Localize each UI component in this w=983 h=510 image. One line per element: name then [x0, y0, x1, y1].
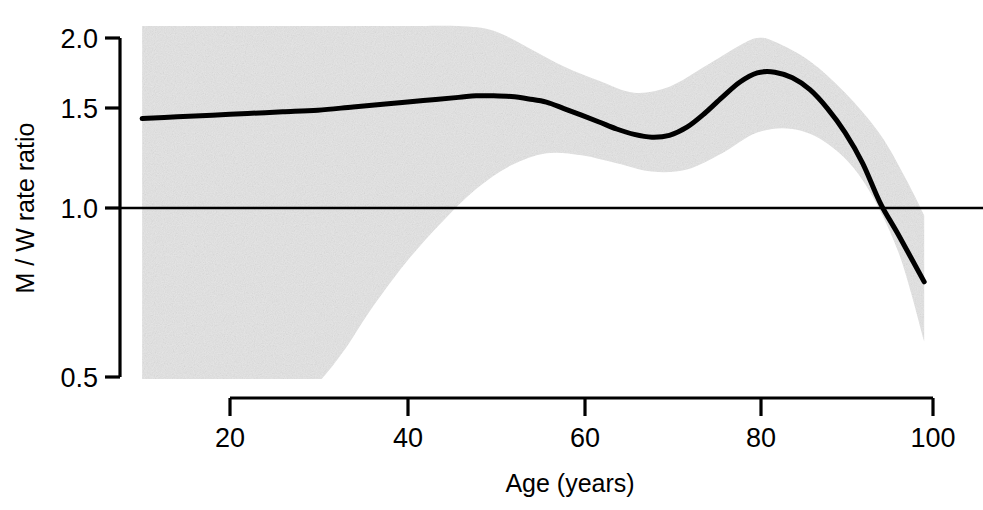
- rate-ratio-chart: 2.0 1.5 1.0 0.5 M / W rate ratio 20 40 6…: [0, 0, 983, 510]
- x-tick-label-60: 60: [570, 423, 600, 453]
- y-tick-label-1-0: 1.0: [60, 194, 98, 224]
- x-tick-label-80: 80: [746, 423, 776, 453]
- y-axis-title: M / W rate ratio: [11, 123, 39, 294]
- x-tick-label-20: 20: [215, 423, 245, 453]
- y-tick-label-1-5: 1.5: [60, 94, 98, 124]
- y-tick-label-2-0: 2.0: [60, 24, 98, 54]
- y-tick-label-0-5: 0.5: [60, 363, 98, 393]
- chart-figure: 2.0 1.5 1.0 0.5 M / W rate ratio 20 40 6…: [0, 0, 983, 510]
- x-tick-label-100: 100: [910, 423, 955, 453]
- x-tick-label-40: 40: [393, 423, 423, 453]
- x-axis-title: Age (years): [505, 469, 634, 497]
